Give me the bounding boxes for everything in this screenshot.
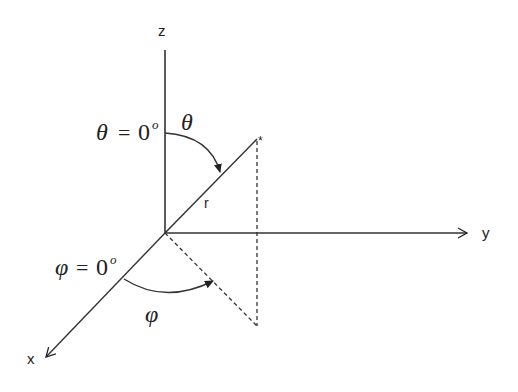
phi-degree-mark: o: [110, 252, 117, 267]
x-axis: [46, 233, 165, 357]
phi-zero-label: φ = 0 o: [55, 252, 117, 280]
y-axis-label: y: [482, 224, 490, 241]
phi-zero-value: 0: [96, 254, 108, 280]
x-axis-label: x: [27, 350, 35, 367]
r-vector-label: r: [204, 195, 209, 211]
phi-equals: =: [76, 255, 88, 280]
theta-zero-label: θ = 0 o: [96, 117, 159, 145]
theta-equals: =: [118, 120, 130, 145]
z-axis-label: z: [158, 22, 166, 39]
phi-symbol: φ: [145, 301, 158, 327]
theta-symbol: θ: [181, 109, 193, 135]
vector-tip-marker: *: [258, 134, 263, 148]
phi-arc: [124, 279, 213, 293]
phi-reference-symbol: φ: [55, 254, 68, 280]
theta-reference-symbol: θ: [96, 119, 108, 145]
spherical-coordinates-diagram: z y x r * θ θ = 0 o φ φ = 0 o: [0, 0, 518, 392]
theta-degree-mark: o: [152, 117, 159, 132]
plane-projection-line: [165, 233, 257, 326]
theta-arc: [165, 133, 220, 172]
theta-zero-value: 0: [138, 119, 150, 145]
